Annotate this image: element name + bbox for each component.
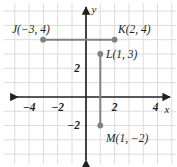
x-tick-label-pos4: 4 [152,101,159,113]
y-tick-label-neg2: −2 [67,119,80,131]
x-axis-label: x [164,103,170,115]
x-tick-label-neg4: −4 [23,101,36,113]
point-label-m: M(1, −2) [105,132,148,145]
coordinate-plane-figure: J(−3, 4) K(2, 4) L(1, 3) M(1, −2) −4 −2 … [0,0,177,167]
point-j [40,37,46,43]
point-label-k: K(2, 4) [117,23,151,36]
y-tick-label-pos2: 2 [73,62,80,74]
point-m [97,123,103,129]
x-tick-label-neg2: −2 [51,101,64,113]
point-k [112,37,118,43]
coordinate-plane-svg: J(−3, 4) K(2, 4) L(1, 3) M(1, −2) −4 −2 … [0,0,177,167]
point-label-l: L(1, 3) [105,48,137,61]
point-label-j: J(−3, 4) [12,23,50,36]
x-tick-label-pos2: 2 [111,101,118,113]
y-axis-label: y [91,3,97,15]
point-l [97,51,103,57]
